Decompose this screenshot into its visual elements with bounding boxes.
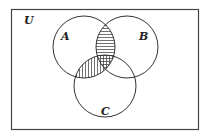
label-b: B: [138, 30, 148, 43]
venn-diagram: U A B C: [0, 0, 208, 137]
label-a: A: [60, 30, 70, 43]
label-c: C: [101, 105, 110, 118]
label-universe: U: [24, 14, 35, 27]
